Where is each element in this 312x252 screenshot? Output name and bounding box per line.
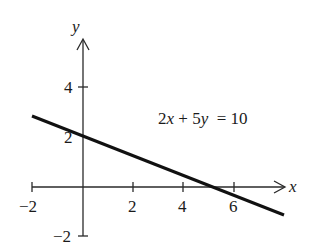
y-tick-label-2: 2 bbox=[64, 128, 73, 147]
equation-label: 2x + 5y = 10 bbox=[158, 109, 248, 128]
x-tick-label-4: 4 bbox=[178, 197, 187, 216]
x-axis-label: x bbox=[288, 177, 297, 196]
x-tick-label-neg2: −2 bbox=[19, 197, 37, 216]
line-graph: y x −2 2 4 6 4 2 −2 2x + 5y = 10 bbox=[0, 0, 312, 252]
y-axis-label: y bbox=[70, 17, 80, 36]
x-tick-label-2: 2 bbox=[128, 197, 137, 216]
y-tick-label-4: 4 bbox=[64, 78, 73, 97]
y-tick-label-neg2: −2 bbox=[53, 227, 71, 246]
x-tick-label-6: 6 bbox=[229, 197, 238, 216]
